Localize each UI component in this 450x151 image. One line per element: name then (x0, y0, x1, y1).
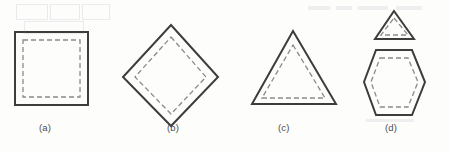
panel-b-outer-diamond (123, 25, 218, 126)
panel-d-inner-hexagon-dashed (371, 58, 418, 107)
panel-label-b: (b) (167, 122, 179, 133)
bleed-bar-3 (358, 6, 388, 10)
panel-c-inner-triangle-dashed (262, 45, 325, 98)
panel-b-inner-diamond-dashed (135, 37, 206, 114)
panel-d-outer-hexagon (364, 50, 425, 115)
panel-label-a: (a) (39, 122, 51, 133)
bleed-box-3 (82, 4, 110, 20)
bleed-box-1 (16, 4, 48, 20)
bleed-bar-2 (336, 6, 352, 10)
bleed-box-4 (24, 21, 84, 34)
bleed-box-2 (50, 4, 80, 20)
panel-label-d: (d) (385, 122, 397, 133)
panel-a-outer-square (15, 32, 88, 105)
bleed-bar-4 (396, 6, 422, 10)
bleed-bar-1 (308, 6, 330, 10)
panel-label-c: (c) (278, 122, 290, 133)
panel-a-inner-square-dashed (23, 40, 80, 97)
